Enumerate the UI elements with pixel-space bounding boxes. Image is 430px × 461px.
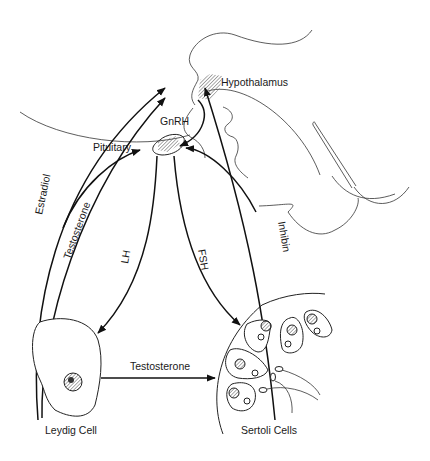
inhibin-label: Inhibin	[276, 220, 293, 253]
pituitary: GnRH Pituitary	[93, 115, 189, 155]
lh-arrow	[98, 156, 157, 333]
testosterone-local-label: Testosterone	[130, 360, 190, 372]
inhibin-pituitary-arrow	[186, 148, 256, 212]
sertoli-label: Sertoli Cells	[241, 424, 297, 436]
testosterone-feedback-label: Testosterone	[61, 200, 93, 261]
leydig-label: Leydig Cell	[45, 424, 97, 436]
gnrh-label: GnRH	[160, 115, 189, 127]
lh-label: LH	[118, 249, 132, 264]
leydig-cell: Leydig Cell	[33, 319, 102, 436]
estradiol-label: Estradiol	[32, 173, 52, 215]
fsh-arrow	[174, 156, 240, 325]
hpg-axis-diagram: Hypothalamus GnRH Pituitary Estradiol Te…	[0, 0, 430, 461]
hypothalamus: Hypothalamus	[198, 74, 288, 100]
fsh-label: FSH	[196, 248, 211, 271]
brainstem-outline	[259, 122, 409, 234]
hypothalamus-label: Hypothalamus	[221, 76, 288, 88]
hypothalamus-hatch-icon	[198, 74, 222, 100]
brain-outline	[20, 30, 320, 178]
